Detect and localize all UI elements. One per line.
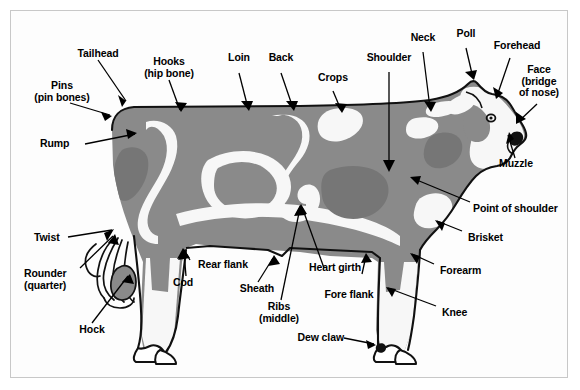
label-rounder: Rounder (quarter) [24, 268, 102, 291]
label-ribs: Ribs (middle) [248, 301, 310, 324]
front-hoof-2-outline [395, 350, 416, 364]
label-sheath: Sheath [228, 283, 286, 295]
label-face: Face (bridge of nose) [508, 64, 570, 99]
label-knee: Knee [442, 307, 490, 319]
arrow-tailhead [118, 95, 126, 107]
label-back: Back [256, 52, 306, 64]
label-shoulder: Shoulder [357, 52, 421, 64]
label-poll: Poll [445, 28, 487, 40]
label-cod: Cod [162, 277, 204, 289]
label-neck: Neck [399, 32, 447, 44]
label-rump: Rump [40, 138, 90, 150]
eye-pupil-icon [489, 116, 492, 119]
label-forearm: Forearm [440, 265, 500, 277]
dew-claw-detail [376, 343, 386, 353]
label-dew-claw: Dew claw [288, 332, 344, 344]
label-muzzle: Muzzle [487, 158, 545, 170]
leader-rounder [80, 236, 113, 268]
label-crops: Crops [306, 72, 360, 84]
label-hock: Hock [68, 324, 116, 336]
label-twist: Twist [34, 232, 78, 244]
label-brisket: Brisket [468, 232, 524, 244]
label-pins: Pins (pin bones) [14, 80, 110, 103]
label-fore-flank: Fore flank [315, 289, 383, 301]
arrow-dew-claw [366, 340, 376, 349]
hind-hoof-2-outline [155, 350, 176, 364]
label-point-of-shoulder: Point of shoulder [473, 203, 577, 215]
arrow-sheath [268, 255, 280, 266]
label-forehead: Forehead [484, 40, 550, 52]
label-tailhead: Tailhead [62, 48, 134, 60]
diagram-page: Tailhead Pins (pin bones) Rump Hooks (hi… [0, 0, 580, 390]
arrow-poll [465, 70, 477, 80]
label-hooks: Hooks (hip bone) [128, 56, 210, 79]
label-rear-flank: Rear flank [185, 259, 261, 271]
label-heart-girth: Heart girth [298, 262, 372, 274]
